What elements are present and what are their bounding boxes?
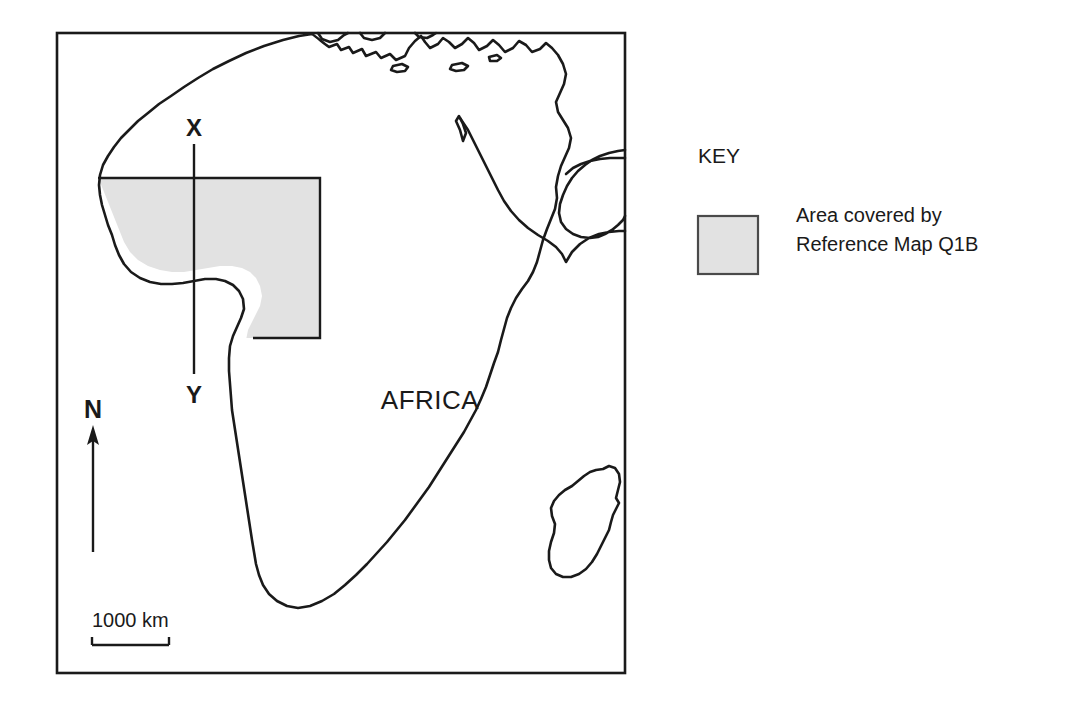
legend-swatch-reference-area	[698, 216, 758, 274]
north-arrow-label: N	[84, 395, 102, 423]
legend-title: KEY	[698, 144, 740, 167]
legend-label-line2: Reference Map Q1B	[796, 233, 978, 255]
map-frame	[57, 33, 625, 673]
legend-label-line1: Area covered by	[796, 204, 942, 226]
legend: KEY Area covered by Reference Map Q1B	[698, 144, 978, 274]
scale-bar-label: 1000 km	[92, 609, 169, 631]
transect-label-y: Y	[186, 381, 202, 408]
transect-label-x: X	[186, 114, 202, 141]
africa-reference-map: X Y N 1000 km AFRICA KEY Area covered by…	[0, 0, 1082, 707]
figure-root: X Y N 1000 km AFRICA KEY Area covered by…	[0, 0, 1082, 707]
continent-label-africa: AFRICA	[381, 385, 480, 415]
